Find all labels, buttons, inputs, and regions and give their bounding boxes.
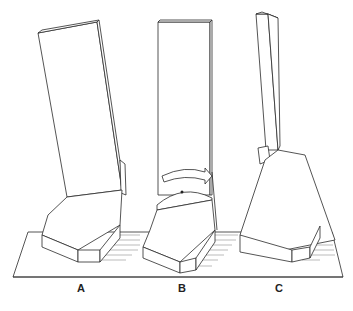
panel-label-a: A bbox=[71, 282, 91, 294]
panel-label-b: B bbox=[172, 282, 192, 294]
diagram-canvas bbox=[0, 0, 353, 311]
panel-b-figure bbox=[143, 20, 217, 273]
panel-c-figure bbox=[240, 12, 335, 262]
panel-label-c: C bbox=[269, 282, 289, 294]
panel-a-figure bbox=[38, 20, 126, 262]
pivot-point bbox=[181, 191, 184, 194]
